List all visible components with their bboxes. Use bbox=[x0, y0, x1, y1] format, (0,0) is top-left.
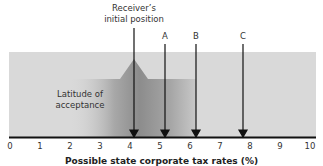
latitude-label-line2: acceptance bbox=[50, 100, 110, 110]
marker-c-label: C bbox=[238, 31, 248, 41]
marker-a-label: A bbox=[160, 31, 170, 41]
x-tick-1: 1 bbox=[37, 141, 42, 151]
marker-b-label: B bbox=[191, 31, 201, 41]
x-tick-10: 10 bbox=[305, 141, 316, 151]
x-axis-title: Possible state corporate tax rates (%) bbox=[0, 156, 323, 166]
x-tick-0: 0 bbox=[7, 141, 12, 151]
x-tick-2: 2 bbox=[67, 141, 72, 151]
x-tick-4: 4 bbox=[127, 141, 132, 151]
receiver-label-line1: Receiver’s bbox=[104, 3, 164, 13]
x-tick-5: 5 bbox=[157, 141, 162, 151]
receiver-label-line2: initial position bbox=[99, 14, 169, 24]
latitude-label-line1: Latitude of bbox=[50, 89, 110, 99]
x-tick-8: 8 bbox=[247, 141, 252, 151]
x-tick-9: 9 bbox=[277, 141, 282, 151]
x-tick-7: 7 bbox=[217, 141, 222, 151]
x-tick-6: 6 bbox=[187, 141, 192, 151]
x-tick-3: 3 bbox=[97, 141, 102, 151]
